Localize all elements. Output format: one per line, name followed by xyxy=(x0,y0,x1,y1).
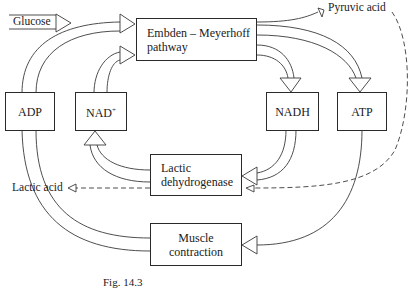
nad-label: NAD xyxy=(86,106,112,120)
embden-line1: Embden – Meyerhoff xyxy=(147,26,250,40)
embden-meyerhoff-box: Embden – Meyerhoff pathway xyxy=(136,18,257,61)
embden-to-nadh-arrow xyxy=(257,45,301,92)
glucose-label: Glucose xyxy=(13,15,51,27)
nad-box: NAD+ xyxy=(75,92,127,131)
lactic-acid-label: Lactic acid xyxy=(12,181,63,193)
atp-to-muscle-arrow xyxy=(242,130,362,254)
ldh-line1: Lactic xyxy=(161,161,233,175)
pyruvic-acid-label: Pyruvic acid xyxy=(328,1,386,13)
muscle-line1: Muscle xyxy=(169,231,223,245)
embden-to-pyruvic-arrow xyxy=(257,8,324,22)
nad-superscript: + xyxy=(112,106,116,114)
ldh-to-lactic-acid-dashed-arrow xyxy=(68,184,150,192)
ldh-line2: dehydrogenase xyxy=(161,175,233,189)
nadh-box: NADH xyxy=(266,92,319,131)
nad-to-embden-arrow xyxy=(94,46,135,93)
adp-box: ADP xyxy=(5,92,55,131)
ldh-to-nad-arrow xyxy=(84,131,150,182)
atp-label: ATP xyxy=(351,105,372,119)
figure-caption: Fig. 14.3 xyxy=(103,276,142,288)
muscle-line2: contraction xyxy=(169,245,223,259)
nadh-label: NADH xyxy=(275,105,310,119)
embden-line2: pathway xyxy=(147,40,250,54)
adp-label: ADP xyxy=(18,105,42,119)
lactic-dehydrogenase-box: Lactic dehydrogenase xyxy=(150,154,242,196)
muscle-contraction-box: Muscle contraction xyxy=(150,223,242,266)
atp-box: ATP xyxy=(337,92,387,131)
nadh-to-ldh-arrow xyxy=(242,130,296,185)
